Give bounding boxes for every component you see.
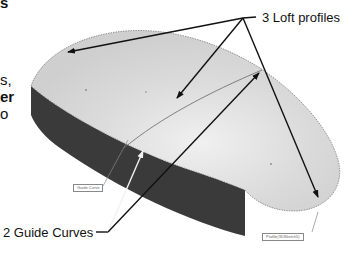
loft-profiles-label: 3 Loft profiles <box>262 11 340 24</box>
guide-curve-tag: Guide Curve <box>73 184 103 192</box>
guide-curves-label: 2 Guide Curves <box>3 226 93 239</box>
profile-tag: Profile(3DSketch5) <box>262 233 304 241</box>
profile-tag-leader <box>312 212 318 232</box>
loft-diagram <box>0 0 357 256</box>
